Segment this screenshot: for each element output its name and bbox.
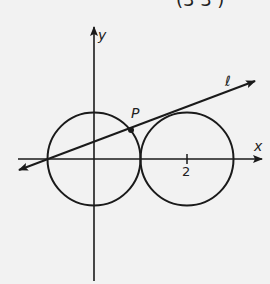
y-axis-label: y — [97, 27, 107, 43]
coordinate-diagram: (3 3 ) y x 2 P ℓ — [0, 0, 270, 284]
x-axis-label: x — [253, 138, 263, 154]
point-p — [128, 127, 134, 133]
point-p-label: P — [131, 105, 140, 121]
tick-label-2: 2 — [182, 164, 190, 179]
line-l-label: ℓ — [224, 73, 231, 89]
header-fragment: (3 3 ) — [176, 0, 224, 10]
line-l-lower — [19, 159, 48, 170]
line-l-upper — [48, 81, 255, 159]
